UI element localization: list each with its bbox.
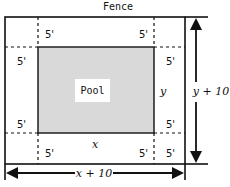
margin-label-top-left: 5' [45,29,54,40]
arrow-right-icon [172,167,184,179]
margin-label-bottom-right: 5' [166,148,175,159]
total-width-label: x + 10 [76,167,112,180]
total-height-label: y + 10 [192,85,229,98]
pool-width-label: x [92,138,99,151]
margin-label-bottom-left: 5' [45,148,54,159]
pool-label: Pool [80,85,104,96]
arrow-down-icon [190,151,202,163]
arrow-up-icon [190,18,202,30]
margin-label-bottom-mid-right: 5' [139,148,148,159]
pool-height-label: y [159,85,167,98]
margin-label-left-upper: 5' [17,56,26,67]
pool-fence-diagram: Fence Pool 5' 5' 5' 5' 5' 5' 5' 5' 5' x … [0,0,230,187]
margin-label-top-right: 5' [139,29,148,40]
arrow-left-icon [6,167,18,179]
margin-label-left-lower: 5' [17,119,26,130]
margin-label-right-lower: 5' [166,119,175,130]
margin-label-right-upper: 5' [166,56,175,67]
fence-title: Fence [103,1,133,12]
